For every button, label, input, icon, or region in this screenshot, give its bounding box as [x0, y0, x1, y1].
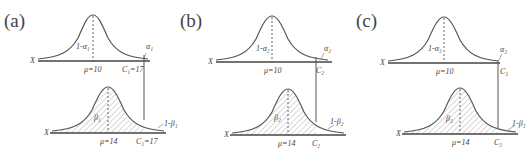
beta-area-label: β₁ [94, 113, 101, 122]
mean-label: μ=14 [100, 137, 117, 146]
power-area-label: 1-β₃ [512, 119, 525, 128]
axis-label: X [44, 128, 49, 137]
power-area-label: 1-β₂ [330, 117, 343, 126]
null-distribution-curve [388, 17, 498, 61]
mean-label: μ=10 [84, 65, 101, 74]
body-area-label: 1-α₂ [256, 44, 270, 53]
alt-distribution-hatch [404, 88, 498, 134]
panel-b-graphic [176, 0, 352, 158]
mean-label: μ=10 [264, 66, 281, 75]
critical-value-label: C₂ [316, 66, 324, 75]
critical-value-label: C₂ [312, 139, 320, 148]
tail-area-label: α₂ [324, 44, 331, 53]
mean-label: μ=14 [278, 139, 295, 148]
mean-label: μ=10 [436, 67, 453, 76]
critical-value-label: C₃ [500, 67, 508, 76]
tail-area-label: α₁ [146, 42, 153, 51]
beta-area-label: β₂ [274, 113, 281, 122]
panel-c: (c) X 1-α₃ α₃ μ=10 C₃ X β₃ 1-β₃ μ=14 C₃ [352, 0, 528, 158]
mean-label: μ=14 [452, 138, 469, 147]
critical-value-label: C₁=17 [122, 65, 144, 74]
axis-label: X [396, 129, 401, 138]
beta-area-label: β₃ [446, 114, 453, 123]
panel-c-graphic [352, 0, 530, 158]
axis-label: X [224, 130, 229, 139]
panel-a-graphic [0, 0, 176, 158]
critical-value-label: C₃ [494, 138, 502, 147]
panel-a: (a) X 1-α₁ α₁ μ=10 C₁=17 X β₁ 1-β₁ μ=14 … [0, 0, 176, 158]
panel-b: (b) X 1-α₂ α₂ μ=10 C₂ X β₂ 1-β₂ μ=14 C₂ [176, 0, 352, 158]
alt-distribution-hatch [52, 87, 144, 133]
body-area-label: 1-α₃ [428, 44, 442, 53]
axis-label: X [208, 57, 213, 66]
axis-label: X [30, 56, 35, 65]
axis-label: X [380, 58, 385, 67]
body-area-label: 1-α₁ [76, 42, 90, 51]
tail-area-label: α₃ [500, 45, 507, 54]
critical-value-label: C₁=17 [136, 137, 158, 146]
